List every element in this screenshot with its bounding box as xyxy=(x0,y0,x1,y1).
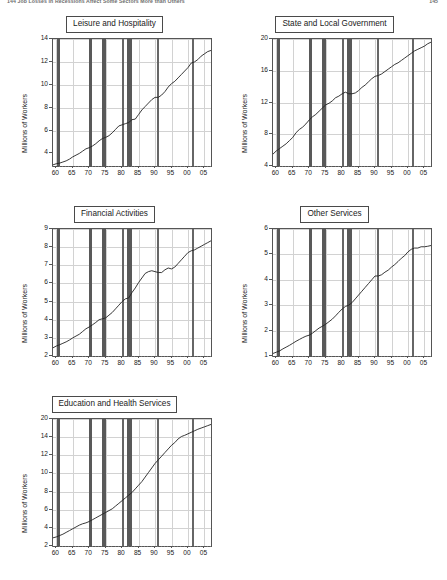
x-tick-minor xyxy=(364,356,365,357)
x-tick-major xyxy=(72,546,73,548)
x-tick-minor xyxy=(180,166,181,167)
x-tick-label: 70 xyxy=(80,359,96,366)
x-tick-major xyxy=(187,166,188,168)
x-tick-minor xyxy=(174,356,175,357)
x-tick-major xyxy=(341,356,342,358)
chart-title: State and Local Government xyxy=(275,16,393,33)
x-tick-minor xyxy=(384,166,385,167)
x-tick-major xyxy=(138,166,139,168)
y-tick-label: 12 xyxy=(18,57,48,64)
x-tick-minor xyxy=(190,546,191,547)
x-tick-minor xyxy=(315,356,316,357)
x-tick-minor xyxy=(75,356,76,357)
y-tick-label: 5 xyxy=(238,249,268,256)
x-tick-label: 60 xyxy=(267,359,283,366)
x-tick-major xyxy=(88,546,89,548)
x-tick-label: 75 xyxy=(97,549,113,556)
x-tick-minor xyxy=(321,356,322,357)
y-tick-mark xyxy=(269,133,272,134)
x-tick-minor xyxy=(377,166,378,167)
x-tick-minor xyxy=(298,356,299,357)
x-tick-label: 95 xyxy=(163,169,179,176)
y-tick-label: 6 xyxy=(18,505,48,512)
x-tick-minor xyxy=(124,166,125,167)
x-tick-label: 85 xyxy=(350,359,366,366)
series-line xyxy=(273,229,431,356)
x-tick-minor xyxy=(161,546,162,547)
chart-title-wrap: State and Local Government xyxy=(232,16,437,33)
x-tick-minor xyxy=(410,166,411,167)
plot-area xyxy=(272,38,432,167)
x-tick-minor xyxy=(134,546,135,547)
page-number: 145 xyxy=(429,0,438,4)
x-tick-minor xyxy=(305,356,306,357)
x-tick-minor xyxy=(118,356,119,357)
x-tick-minor xyxy=(62,546,63,547)
x-tick-minor xyxy=(95,166,96,167)
x-tick-minor xyxy=(157,166,158,167)
x-tick-minor xyxy=(427,356,428,357)
x-tick-minor xyxy=(184,356,185,357)
x-axis: 60657075808590950005 xyxy=(52,356,210,368)
x-tick-minor xyxy=(331,166,332,167)
y-tick-label: 10 xyxy=(18,468,48,475)
x-tick-label: 00 xyxy=(179,359,195,366)
x-tick-minor xyxy=(157,546,158,547)
x-tick-minor xyxy=(131,166,132,167)
y-tick-label: 3 xyxy=(18,333,48,340)
x-tick-minor xyxy=(101,356,102,357)
x-tick-minor xyxy=(92,546,93,547)
x-tick-minor xyxy=(59,356,60,357)
x-tick-minor xyxy=(78,546,79,547)
x-tick-label: 00 xyxy=(179,169,195,176)
x-tick-minor xyxy=(371,356,372,357)
x-tick-minor xyxy=(118,546,119,547)
x-tick-minor xyxy=(177,546,178,547)
plot-area xyxy=(272,228,432,357)
x-tick-major xyxy=(275,166,276,168)
x-tick-label: 75 xyxy=(317,359,333,366)
x-tick-minor xyxy=(180,356,181,357)
x-tick-minor xyxy=(59,546,60,547)
y-tick-mark xyxy=(49,319,52,320)
x-tick-label: 80 xyxy=(333,359,349,366)
x-tick-minor xyxy=(295,356,296,357)
chart-panel-4: Other ServicesMillions of Workers1234566… xyxy=(232,206,437,388)
x-tick-minor xyxy=(318,166,319,167)
x-tick-label: 95 xyxy=(163,549,179,556)
x-tick-minor xyxy=(420,356,421,357)
chart-panel-2: State and Local GovernmentMillions of Wo… xyxy=(232,16,437,198)
x-tick-label: 95 xyxy=(383,169,399,176)
x-tick-major xyxy=(423,166,424,168)
chart-title-wrap: Leisure and Hospitality xyxy=(12,16,217,33)
y-tick-label: 14 xyxy=(18,34,48,41)
x-tick-minor xyxy=(427,166,428,167)
x-tick-major xyxy=(88,356,89,358)
x-tick-label: 60 xyxy=(47,169,63,176)
x-tick-label: 90 xyxy=(366,359,382,366)
x-tick-label: 90 xyxy=(146,549,162,556)
x-tick-major xyxy=(358,166,359,168)
x-tick-label: 70 xyxy=(300,359,316,366)
x-tick-minor xyxy=(361,356,362,357)
y-tick-mark xyxy=(269,253,272,254)
x-tick-minor xyxy=(348,166,349,167)
x-tick-minor xyxy=(400,166,401,167)
y-tick-mark xyxy=(49,228,52,229)
x-tick-minor xyxy=(78,356,79,357)
x-tick-major xyxy=(374,166,375,168)
x-tick-major xyxy=(292,166,293,168)
x-tick-minor xyxy=(335,356,336,357)
x-tick-major xyxy=(154,356,155,358)
x-tick-minor xyxy=(115,166,116,167)
y-tick-mark xyxy=(269,330,272,331)
x-tick-minor xyxy=(381,166,382,167)
x-tick-major xyxy=(325,356,326,358)
y-tick-mark xyxy=(49,337,52,338)
x-tick-minor xyxy=(430,356,431,357)
x-tick-minor xyxy=(52,546,53,547)
x-tick-minor xyxy=(367,166,368,167)
x-tick-minor xyxy=(361,166,362,167)
x-tick-minor xyxy=(367,356,368,357)
x-tick-major xyxy=(138,356,139,358)
